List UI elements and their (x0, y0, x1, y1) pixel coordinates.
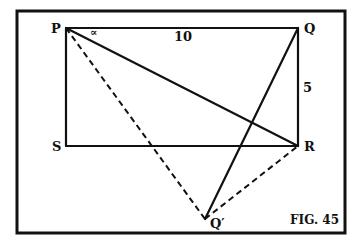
vertex-label-r: R (304, 139, 315, 154)
vertex-label-s: S (52, 139, 61, 154)
segment-p-qp (66, 28, 205, 219)
angle-alpha-label: ∝ (90, 26, 97, 39)
segment-qp-r (205, 146, 298, 219)
segment-p-r (66, 28, 298, 146)
vertex-label-p: P (51, 21, 61, 36)
side-qr-length-label: 5 (303, 80, 312, 95)
segment-q-qp (205, 28, 298, 219)
dashed-lines (66, 28, 298, 219)
solid-lines (66, 28, 298, 219)
figure-caption: FIG. 45 (290, 213, 339, 227)
vertex-label-q-prime: Q′ (210, 216, 225, 231)
side-pq-length-label: 10 (174, 29, 192, 44)
geometry-figure: P Q R S Q′ ∝ 10 5 FIG. 45 (0, 0, 353, 245)
vertex-label-q: Q (304, 21, 315, 36)
